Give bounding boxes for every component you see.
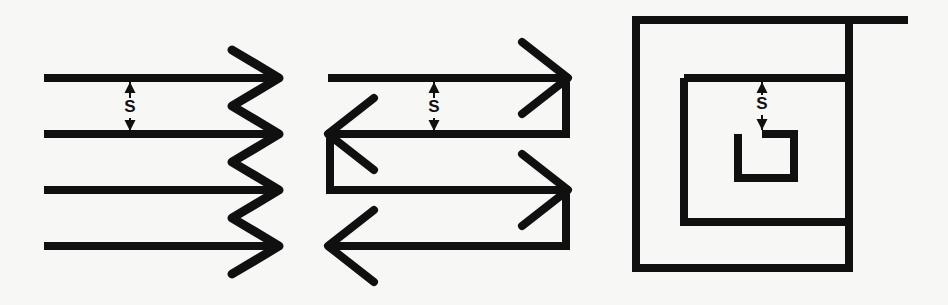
infill-pattern-diagram: S S <box>0 0 948 305</box>
figure-root: S S <box>0 0 948 305</box>
spacing-label: S <box>124 97 135 116</box>
spacing-label: S <box>428 97 439 116</box>
spacing-label: S <box>756 94 767 113</box>
figure-background <box>0 0 948 305</box>
